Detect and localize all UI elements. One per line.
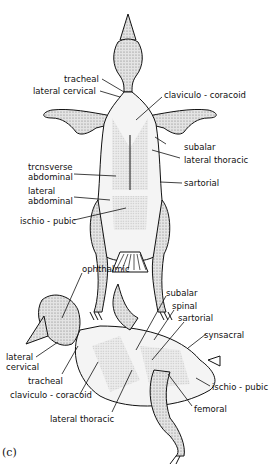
label-ischio-pubic: ischio - pubic (20, 216, 76, 226)
label-sartorial: sartorial (184, 178, 219, 188)
label-lateral-thoracic-lateral: lateral thoracic (50, 414, 114, 424)
label-transverse-abdominal-2: abdominal (28, 172, 73, 182)
label-synsacral: synsacral (204, 330, 244, 340)
label-transverse-abdominal-1: trcnsverse (28, 162, 73, 172)
figure: tracheal lateral cervical claviculo - co… (0, 0, 280, 468)
label-ophthalmic: ophthalmic (82, 264, 130, 274)
label-spinal: spinal (172, 301, 197, 311)
label-lateral-abdominal-2: abdominal (28, 196, 73, 206)
label-lateral-thoracic: lateral thoracic (184, 155, 248, 165)
panel-label: (c) (2, 446, 17, 459)
label-claviculo-coracoid-lateral: claviculo - coracoid (10, 390, 92, 400)
label-tracheal: tracheal (64, 74, 99, 84)
label-subalar-lateral: subalar (166, 288, 198, 298)
lateral-bird (26, 284, 220, 464)
label-lateral-cervical-lateral-1: lateral (6, 352, 33, 362)
label-lateral-cervical: lateral cervical (33, 86, 96, 96)
label-sartorial-lateral: sartorial (178, 313, 213, 323)
label-ischio-pubic-lateral: ischio - pubic (212, 382, 268, 392)
label-femoral: femoral (194, 404, 227, 414)
label-claviculo-coracoid: claviculo - coracoid (164, 90, 246, 100)
label-tracheal-lateral: tracheal (28, 376, 63, 386)
label-subalar: subalar (184, 142, 216, 152)
label-lateral-abdominal-1: lateral (28, 186, 55, 196)
label-lateral-cervical-lateral-2: cervical (6, 362, 39, 372)
